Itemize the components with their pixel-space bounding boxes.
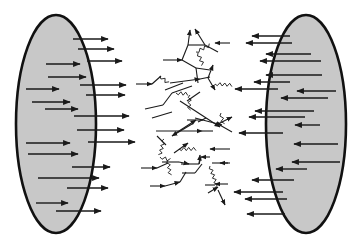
shower-arrow-icon bbox=[188, 30, 190, 45]
shower-gluon-lines bbox=[158, 44, 232, 188]
gluon-line bbox=[158, 139, 164, 155]
shower-line bbox=[152, 112, 172, 118]
shower-line bbox=[196, 68, 198, 83]
gluon-line bbox=[176, 92, 188, 96]
shower-line bbox=[182, 45, 188, 60]
shower-line bbox=[195, 164, 202, 173]
shower-arrow-icon bbox=[172, 124, 192, 136]
right-nucleus-ellipse bbox=[266, 15, 346, 233]
gluon-line bbox=[160, 157, 171, 161]
shower-arrow-icon bbox=[195, 29, 205, 45]
shower-line bbox=[172, 86, 192, 93]
right-nucleus bbox=[234, 15, 346, 233]
shower-line bbox=[163, 93, 172, 105]
gluon-line bbox=[198, 53, 204, 66]
shower-line bbox=[205, 45, 218, 52]
gluon-line bbox=[160, 76, 169, 83]
shower-line bbox=[145, 105, 163, 109]
parton-shower bbox=[136, 29, 232, 205]
shower-arrow-icon bbox=[170, 79, 200, 83]
shower-arrow-icon bbox=[208, 65, 213, 78]
gluon-line bbox=[215, 83, 232, 87]
nuclear-collision-diagram bbox=[0, 0, 357, 249]
shower-arrow-icon bbox=[218, 190, 225, 205]
shower-line bbox=[152, 76, 161, 84]
shower-arrow-icon bbox=[208, 78, 215, 90]
shower-arrow-icon bbox=[208, 187, 218, 193]
shower-line bbox=[165, 83, 183, 90]
shower-line bbox=[157, 163, 168, 168]
shower-arrow-icon bbox=[174, 143, 188, 153]
left-nucleus-ellipse bbox=[16, 15, 96, 233]
shower-line bbox=[218, 124, 232, 132]
shower-quark-lines bbox=[136, 29, 232, 205]
shower-arrow-icon bbox=[218, 117, 232, 124]
left-nucleus bbox=[16, 15, 135, 233]
shower-line bbox=[196, 68, 210, 70]
shower-line bbox=[182, 60, 196, 68]
shower-arrow-icon bbox=[165, 182, 180, 186]
